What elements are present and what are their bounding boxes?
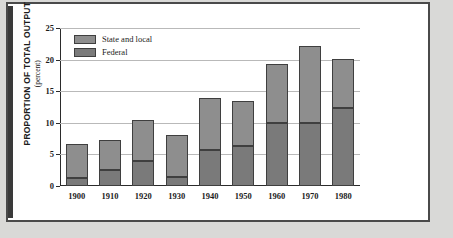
bar-group-1950[interactable]	[232, 101, 254, 186]
bar-group-1910[interactable]	[99, 140, 121, 186]
y-tick-label-20: 20	[28, 55, 54, 65]
legend-label-1: Federal	[102, 47, 128, 57]
y-tick-label-5: 5	[28, 149, 54, 159]
bar-segment-federal-1980[interactable]	[332, 108, 354, 186]
legend-swatch-icon-0	[74, 35, 96, 44]
bar-group-1920[interactable]	[132, 120, 154, 186]
y-tick-label-15: 15	[28, 86, 54, 96]
x-tick-label-1960: 1960	[260, 191, 293, 201]
bar-group-1900[interactable]	[66, 144, 88, 186]
bar-group-1980[interactable]	[332, 59, 354, 186]
chart-legend: State and localFederal	[74, 34, 194, 60]
bar-segment-federal-1970[interactable]	[299, 123, 321, 186]
legend-item-1[interactable]: Federal	[74, 47, 194, 57]
bar-segment-state-and-local-1950[interactable]	[232, 101, 254, 146]
bar-segment-state-and-local-1980[interactable]	[332, 59, 354, 108]
y-tick-label-0: 0	[28, 181, 54, 191]
bar-segment-state-and-local-1910[interactable]	[99, 140, 121, 170]
bar-segment-state-and-local-1920[interactable]	[132, 120, 154, 161]
bar-segment-state-and-local-1970[interactable]	[299, 46, 321, 123]
bar-segment-federal-1930[interactable]	[166, 177, 188, 186]
bar-segment-federal-1910[interactable]	[99, 170, 121, 186]
bar-segment-state-and-local-1900[interactable]	[66, 144, 88, 178]
legend-label-0: State and local	[102, 34, 152, 44]
bar-group-1960[interactable]	[266, 64, 288, 186]
bar-segment-federal-1960[interactable]	[266, 123, 288, 186]
x-tick-label-1950: 1950	[227, 191, 260, 201]
bar-segment-state-and-local-1940[interactable]	[199, 98, 221, 150]
bar-segment-state-and-local-1930[interactable]	[166, 135, 188, 177]
y-tick-label-25: 25	[28, 23, 54, 33]
legend-item-0[interactable]: State and local	[74, 34, 194, 44]
chart-page: PROPORTION OF TOTAL OUTPUT (percent) 051…	[0, 0, 453, 238]
x-tick-label-1900: 1900	[60, 191, 93, 201]
x-tick-label-1970: 1970	[293, 191, 326, 201]
x-tick-label-1920: 1920	[127, 191, 160, 201]
bar-segment-federal-1950[interactable]	[232, 146, 254, 186]
legend-swatch-icon-1	[74, 48, 96, 57]
bar-group-1930[interactable]	[166, 135, 188, 186]
plot-wrapper: 0510152025 19001910192019301940195019601…	[60, 28, 360, 188]
bar-group-1970[interactable]	[299, 46, 321, 186]
x-tick-label-1980: 1980	[327, 191, 360, 201]
x-tick-label-1940: 1940	[193, 191, 226, 201]
left-edge-bar	[8, 6, 13, 218]
bar-group-1940[interactable]	[199, 98, 221, 186]
bar-segment-federal-1940[interactable]	[199, 150, 221, 186]
x-tick-label-1910: 1910	[93, 191, 126, 201]
bar-segment-federal-1900[interactable]	[66, 178, 88, 186]
bar-segment-federal-1920[interactable]	[132, 161, 154, 186]
y-tick-label-10: 10	[28, 118, 54, 128]
x-tick-label-1930: 1930	[160, 191, 193, 201]
y-tick-mark-0	[56, 186, 60, 187]
bar-segment-state-and-local-1960[interactable]	[266, 64, 288, 123]
